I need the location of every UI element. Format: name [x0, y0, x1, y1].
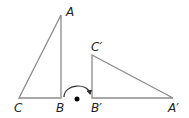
label-b: B	[56, 101, 64, 115]
label-c-prime: C′	[91, 40, 102, 54]
triangle-a-prime-b-prime-c-prime	[92, 55, 173, 98]
label-a: A	[65, 5, 74, 19]
triangle-abc	[19, 15, 61, 98]
rotation-arc-arrow	[64, 86, 90, 97]
rotation-center-dot	[75, 97, 80, 102]
label-a-prime: A′	[167, 101, 179, 115]
rotation-diagram: A B C C′ B′ A′	[0, 0, 189, 118]
label-b-prime: B′	[91, 101, 102, 115]
label-c: C	[14, 101, 23, 115]
